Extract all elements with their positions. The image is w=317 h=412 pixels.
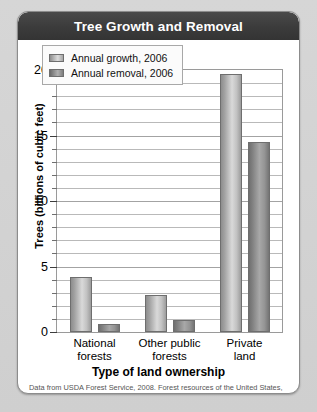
bar-removal [248, 142, 270, 332]
y-axis-tick-label: 0 [41, 325, 48, 339]
y-axis-tick-label: 10 [34, 194, 48, 208]
chart-title-bar: Tree Growth and Removal [18, 12, 299, 40]
bar-group: Nationalforests [57, 70, 132, 332]
y-axis-tick-label: 15 [34, 129, 48, 143]
chart-title: Tree Growth and Removal [74, 19, 243, 34]
x-axis-category-line: Private [203, 337, 287, 350]
legend-label-removal: Annual removal, 2006 [71, 67, 173, 79]
x-axis-category-label: Privateland [203, 337, 287, 363]
legend-item-removal: Annual removal, 2006 [49, 65, 173, 80]
chart-card: Tree Growth and Removal Trees (billions … [17, 11, 300, 394]
x-axis-category-label: Other publicforests [128, 337, 212, 363]
legend-label-growth: Annual growth, 2006 [71, 52, 167, 64]
bar-growth [145, 295, 167, 332]
bar-removal [173, 320, 195, 332]
x-axis-category-line: forests [53, 350, 137, 363]
x-axis-category-line: forests [128, 350, 212, 363]
y-axis-tick [50, 332, 57, 333]
bar-group: Other publicforests [132, 70, 207, 332]
legend-item-growth: Annual growth, 2006 [49, 50, 173, 65]
x-axis-title: Type of land ownership [18, 365, 299, 379]
y-axis-tick [50, 267, 57, 268]
x-axis-category-label: Nationalforests [53, 337, 137, 363]
bar-growth [70, 277, 92, 332]
plot-area: 05101520NationalforestsOther publicfores… [56, 69, 283, 333]
chart-legend: Annual growth, 2006 Annual removal, 2006 [42, 45, 183, 85]
y-axis-title: Trees (billions of cubic feet) [33, 76, 45, 276]
y-axis-tick [50, 136, 57, 137]
legend-swatch-growth-icon [49, 54, 64, 62]
chart-body: Trees (billions of cubic feet) 05101520N… [18, 40, 299, 394]
x-axis-category-line: National [53, 337, 137, 350]
bar-group: Privateland [207, 70, 282, 332]
y-axis-tick [50, 201, 57, 202]
y-axis-tick-label: 5 [41, 260, 48, 274]
source-note: Data from USDA Forest Service, 2008. For… [29, 383, 289, 394]
x-axis-category-line: Other public [128, 337, 212, 350]
legend-swatch-removal-icon [49, 69, 64, 77]
x-axis-category-line: land [203, 350, 287, 363]
bar-growth [220, 74, 242, 332]
page-background: Tree Growth and Removal Trees (billions … [0, 0, 317, 412]
bar-removal [98, 324, 120, 332]
